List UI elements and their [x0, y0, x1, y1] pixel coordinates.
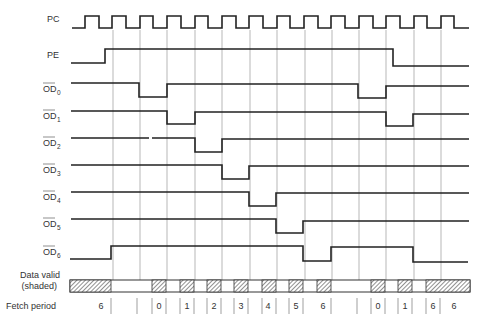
fetch-num: 4 [265, 301, 270, 311]
waveform-od0 [71, 83, 469, 98]
label-od6: OD 6 [43, 246, 61, 259]
waveform-od2 [71, 138, 469, 152]
svg-text:OD: OD [43, 192, 57, 202]
waveform-pe [71, 49, 469, 66]
label-od4: OD 4 [43, 191, 61, 204]
label-od0: OD 0 [43, 83, 61, 96]
signal-labels: PC PE OD 0 OD 1 OD 2 OD 3 OD 4 O [6, 14, 61, 311]
svg-text:1: 1 [57, 116, 61, 123]
svg-text:3: 3 [57, 170, 61, 177]
svg-text:OD: OD [43, 219, 57, 229]
fetch-num: 3 [238, 301, 243, 311]
waveform-od6 [70, 246, 468, 262]
fetch-num: 0 [156, 301, 161, 311]
svg-text:0: 0 [57, 89, 61, 96]
label-pe: PE [47, 50, 59, 60]
svg-text:2: 2 [57, 143, 61, 150]
label-data-valid: Data valid [20, 270, 60, 280]
svg-text:6: 6 [57, 252, 61, 259]
label-od1: OD 1 [43, 110, 61, 123]
label-fetch-period: Fetch period [6, 301, 56, 311]
label-od2: OD 2 [43, 137, 61, 150]
waveform-od4 [71, 192, 469, 206]
svg-text:OD: OD [43, 138, 57, 148]
fetch-num: 6 [430, 301, 435, 311]
svg-text:4: 4 [57, 197, 61, 204]
svg-text:5: 5 [57, 224, 61, 231]
fetch-num: 6 [98, 301, 103, 311]
data-valid-bar [70, 280, 470, 292]
waveform-od1 [71, 111, 469, 126]
fetch-num: 1 [402, 301, 407, 311]
label-pc: PC [47, 14, 60, 24]
fetch-num: 1 [184, 301, 189, 311]
fetch-num: 0 [375, 301, 380, 311]
timing-diagram: PC PE OD 0 OD 1 OD 2 OD 3 OD 4 O [0, 0, 484, 330]
fetch-num: 6 [320, 301, 325, 311]
svg-text:OD: OD [43, 247, 57, 257]
gridlines [113, 30, 441, 280]
waveform-pc [72, 16, 469, 28]
svg-text:OD: OD [43, 111, 57, 121]
fetch-num: 2 [211, 301, 216, 311]
svg-text:OD: OD [43, 165, 57, 175]
label-od5: OD 5 [43, 218, 61, 231]
waveform-od3 [71, 165, 469, 179]
svg-text:OD: OD [43, 84, 57, 94]
fetch-num: 5 [293, 301, 298, 311]
fetch-num: 6 [451, 301, 456, 311]
label-od3: OD 3 [43, 164, 61, 177]
label-shaded: (shaded) [21, 281, 57, 291]
waveform-od5 [71, 219, 469, 233]
